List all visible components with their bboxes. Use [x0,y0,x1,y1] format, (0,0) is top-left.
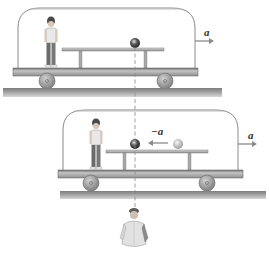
acceleration-arrow-right [195,38,214,44]
observer-figure [120,208,148,247]
ground-bottom [60,191,266,199]
ground-top [3,88,222,97]
wheel [83,175,99,191]
physics-figure: a −a [0,0,269,259]
acceleration-arrow-right [238,141,257,147]
cart-top: a [13,8,214,89]
relative-acceleration-label: −a [151,125,164,137]
acceleration-label: a [204,26,210,38]
wheel [157,73,173,89]
table [62,48,164,68]
boy-figure [45,17,58,68]
boy-figure [90,119,103,170]
ball-light-previous [173,139,183,149]
table [106,150,208,170]
wheel [39,73,55,89]
wheel [199,175,215,191]
relative-acceleration-arrow-left [148,140,168,146]
ball [130,38,140,48]
cart-bottom: −a a [58,110,257,191]
glass-dome [63,110,238,171]
acceleration-label: a [248,129,254,141]
